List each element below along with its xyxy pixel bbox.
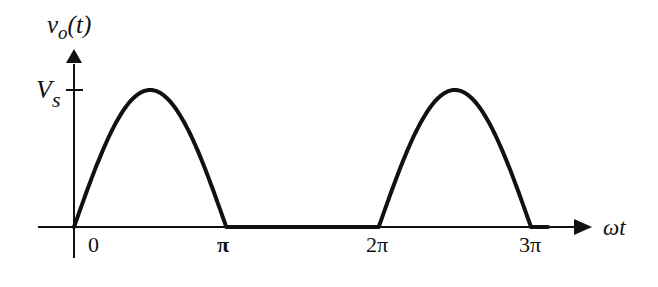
vs-label: Vs (36, 75, 60, 112)
rectified-waveform-chart: vo(t) Vs 0 π 2π 3π ωt (0, 0, 658, 287)
y-axis-label-sub: o (58, 22, 68, 43)
x-tick-pi: π (217, 232, 229, 257)
y-axis-arrow-icon (66, 49, 82, 63)
y-axis-label: vo(t) (47, 11, 91, 43)
x-tick-0: 0 (88, 232, 99, 257)
x-axis-arrow-icon (574, 219, 592, 235)
y-axis-label-arg: (t) (68, 11, 92, 39)
waveform-curve (74, 90, 548, 227)
x-tick-2pi: 2π (366, 232, 388, 257)
vs-label-sub: s (52, 87, 61, 112)
x-axis-label: ωt (603, 215, 626, 240)
x-tick-3pi: 3π (519, 232, 541, 257)
